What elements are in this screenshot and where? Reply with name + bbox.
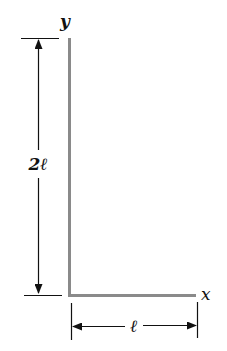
- y-axis-label: y: [59, 11, 71, 31]
- horizontal-dimension-label: ℓ: [130, 316, 137, 336]
- l-shaped-bar: [68, 38, 196, 296]
- horizontal-dimension: ℓ: [72, 302, 198, 340]
- vertical-dimension: 2ℓ: [21, 39, 62, 296]
- x-axis-label: x: [201, 284, 211, 304]
- vertical-dimension-label: 2ℓ: [27, 154, 47, 174]
- l-shaped-bar-diagram: y x 2ℓ ℓ: [0, 0, 227, 351]
